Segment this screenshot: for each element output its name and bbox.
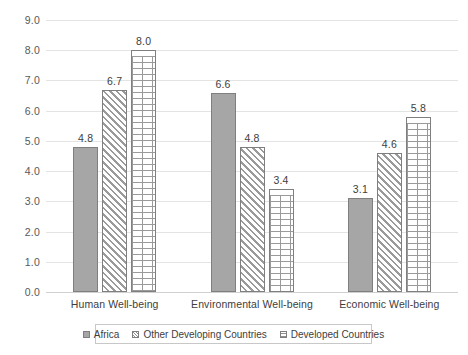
legend-label-1: Other Developing Countries (143, 329, 266, 340)
y-axis: 0.01.02.03.04.05.06.07.08.09.0 (0, 20, 40, 292)
y-tick-label-3.0: 3.0 (6, 195, 40, 207)
x-tick-label-0: Human Well-being (46, 298, 183, 310)
bar-2-0 (348, 198, 373, 292)
bar-chart: 0.01.02.03.04.05.06.07.08.09.0 4.86.78.0… (0, 0, 468, 355)
gridline-0.0 (46, 292, 458, 293)
data-label-1-1: 4.8 (232, 132, 272, 144)
y-tick-label-1.0: 1.0 (6, 256, 40, 268)
data-label-2-1: 4.6 (369, 138, 409, 150)
y-tick-label-0.0: 0.0 (6, 286, 40, 298)
y-tick-label-2.0: 2.0 (6, 226, 40, 238)
bar-1-1 (240, 147, 265, 292)
y-tick-label-6.0: 6.0 (6, 105, 40, 117)
y-tick-label-8.0: 8.0 (6, 44, 40, 56)
x-tick-label-1: Environmental Well-being (183, 298, 320, 310)
gridline-9.0 (46, 20, 458, 21)
data-label-0-1: 6.7 (95, 75, 135, 87)
legend-swatch-icon-0 (83, 331, 90, 338)
data-label-0-2: 8.0 (124, 35, 164, 47)
y-tick-label-5.0: 5.0 (6, 135, 40, 147)
bar-1-2 (269, 189, 294, 292)
legend-swatch-icon-2 (280, 331, 287, 338)
data-label-2-0: 3.1 (340, 183, 380, 195)
chart-legend: AfricaOther Developing CountriesDevelope… (95, 324, 372, 344)
x-tick-label-2: Economic Well-being (321, 298, 458, 310)
data-label-2-2: 5.8 (398, 102, 438, 114)
legend-swatch-icon-1 (132, 331, 139, 338)
y-tick-label-4.0: 4.0 (6, 165, 40, 177)
legend-item-2[interactable]: Developed Countries (280, 329, 384, 340)
bar-0-0 (73, 147, 98, 292)
legend-label-2: Developed Countries (291, 329, 384, 340)
data-label-0-0: 4.8 (66, 132, 106, 144)
bar-0-2 (131, 50, 156, 292)
y-tick-label-9.0: 9.0 (6, 14, 40, 26)
legend-label-0: Africa (94, 329, 120, 340)
data-label-1-2: 3.4 (261, 174, 301, 186)
bar-2-2 (406, 117, 431, 292)
gridline-8.0 (46, 50, 458, 51)
bar-1-0 (211, 93, 236, 292)
data-label-1-0: 6.6 (203, 78, 243, 90)
bar-2-1 (377, 153, 402, 292)
y-tick-label-7.0: 7.0 (6, 74, 40, 86)
legend-item-1[interactable]: Other Developing Countries (132, 329, 266, 340)
plot-area: 4.86.78.06.64.83.43.14.65.8 (46, 20, 458, 292)
legend-item-0[interactable]: Africa (83, 329, 120, 340)
bar-0-1 (102, 90, 127, 292)
